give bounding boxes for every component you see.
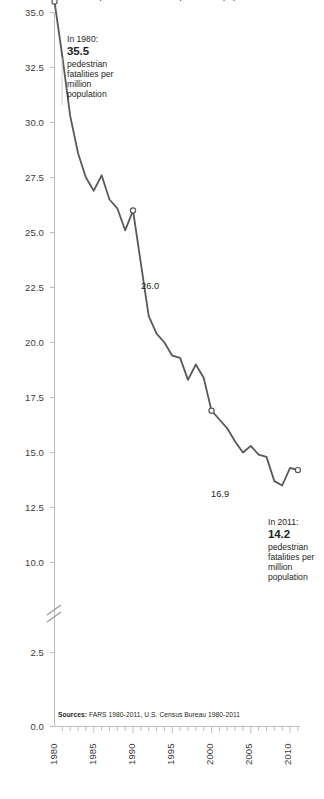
point-label-2000: 16.9 [211,489,229,499]
ytick-label: 35.0 [2,7,44,18]
data-point-marker-1990 [130,208,135,213]
callout-2011-value: 14.2 [268,527,324,541]
xtick-label: 1995 [165,743,176,765]
xtick-label: 2000 [204,743,215,765]
xtick-label: 1980 [48,743,59,765]
data-point-marker-2011 [295,468,300,473]
ytick-label: 20.0 [2,337,44,348]
data-point-marker-1980 [52,0,57,4]
callout-1980-lead: In 1980: [67,34,129,44]
sources-label: Sources: [58,711,87,718]
ytick-label: 15.0 [2,447,44,458]
callout-2011-lead: In 2011: [268,517,324,527]
ytick-label: 30.0 [2,117,44,128]
callout-1980: In 1980: 35.5 pedestrian fatalities per … [67,34,129,99]
chart-canvas [0,0,324,799]
ytick-label: 10.0 [2,557,44,568]
ytick-label: 0.0 [2,721,44,732]
chart-figure: pedestrian fatalities per million popula… [0,0,324,799]
callout-2011: In 2011: 14.2 pedestrian fatalities per … [268,517,324,582]
sources-note: Sources: FARS 1980-2011, U.S. Census Bur… [58,711,240,718]
data-point-marker-2000 [209,408,214,413]
ytick-label: 22.5 [2,282,44,293]
callout-1980-value: 35.5 [67,44,129,58]
callout-2011-tail: pedestrian fatalities per million popula… [268,542,324,583]
xtick-label: 1985 [87,743,98,765]
xtick-label: 1990 [126,743,137,765]
ytick-label: 12.5 [2,502,44,513]
ytick-label: 17.5 [2,392,44,403]
sources-value: FARS 1980-2011, U.S. Census Bureau 1980-… [89,711,240,718]
callout-1980-tail: pedestrian fatalities per million popula… [67,59,129,100]
axis-group [47,12,300,733]
point-label-1990: 26.0 [141,281,159,291]
xtick-label: 2010 [282,743,293,765]
ytick-label: 2.5 [2,647,44,658]
xtick-label: 2005 [243,743,254,765]
ytick-label: 25.0 [2,227,44,238]
ytick-label: 27.5 [2,172,44,183]
ytick-label: 32.5 [2,62,44,73]
